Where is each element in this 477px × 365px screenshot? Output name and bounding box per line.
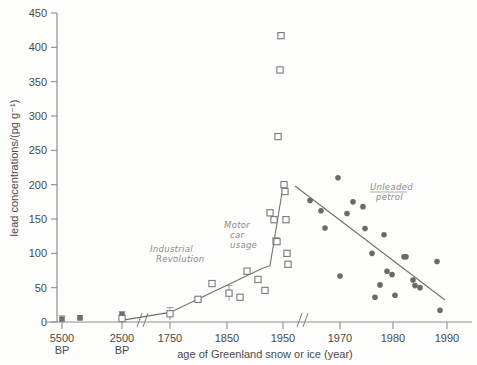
data-point-circle: [322, 225, 328, 231]
data-point-circle: [335, 175, 341, 181]
axis-break-slash: [143, 313, 148, 327]
data-point-circle: [362, 226, 368, 232]
data-point-circle: [389, 272, 395, 278]
data-point-circle: [344, 211, 350, 217]
y-tick-label: 100: [29, 247, 47, 259]
data-point-circle: [360, 204, 366, 210]
data-point-open-square: [285, 261, 291, 267]
data-point-circle: [412, 283, 418, 289]
data-point-open-square: [226, 290, 232, 296]
data-point-circle: [384, 268, 390, 274]
data-point-open-square: [195, 296, 201, 302]
y-tick-label: 200: [29, 179, 47, 191]
data-point-open-square: [284, 250, 290, 256]
x-tick-sublabel: BP: [55, 344, 70, 356]
y-tick-label: 300: [29, 110, 47, 122]
axis-break-slash: [303, 313, 308, 327]
data-point-circle: [377, 282, 383, 288]
data-point-open-square: [167, 311, 173, 317]
data-point-circle: [307, 198, 313, 204]
x-tick-sublabel: BP: [115, 344, 130, 356]
data-point-circle: [434, 259, 440, 265]
y-tick-label: 250: [29, 144, 47, 156]
x-tick-label: 1750: [158, 332, 182, 344]
data-point-circle: [381, 232, 387, 238]
y-tick-label: 350: [29, 76, 47, 88]
data-point-circle: [372, 294, 378, 300]
data-point-circle: [410, 277, 416, 283]
y-axis-ticks: 050100150200250300350400450: [29, 7, 57, 328]
data-point-circle: [403, 254, 409, 260]
x-tick-label: 1990: [435, 332, 459, 344]
unleaded-petrol-line: petrol: [375, 192, 403, 202]
data-point-circle: [350, 199, 356, 205]
x-tick-label: 2500: [110, 332, 134, 344]
x-tick-label: 1980: [381, 332, 405, 344]
data-point-circle: [337, 273, 343, 279]
data-point-open-square: [281, 182, 287, 188]
industrial-revolution-line: Industrial: [150, 244, 193, 254]
y-tick-label: 450: [29, 7, 47, 19]
data-point-open-square: [277, 67, 283, 73]
data-point-open-square: [278, 33, 284, 39]
y-tick-label: 400: [29, 41, 47, 53]
data-point-open-square: [262, 287, 268, 293]
data-point-circle: [437, 308, 443, 314]
motor-car-usage-line: Motor: [224, 220, 250, 230]
data-point-open-square: [255, 276, 261, 282]
unleaded-petrol-line: Unleaded: [370, 182, 413, 192]
x-tick-label: 1850: [215, 332, 239, 344]
data-point-circle: [417, 285, 423, 291]
axis-break-slash: [137, 313, 142, 327]
data-point-filled-square: [77, 315, 83, 321]
motor-car-usage-line: usage: [230, 240, 257, 250]
axis-break-marks: [137, 313, 308, 327]
motor-car-usage-line: car: [230, 230, 244, 240]
data-point-open-square: [267, 210, 273, 216]
data-point-circle: [369, 251, 375, 257]
chart-figure: 050100150200250300350400450 5500BP2500BP…: [0, 0, 477, 365]
x-tick-label: 1950: [271, 332, 295, 344]
x-tick-label: 1970: [328, 332, 352, 344]
data-point-open-square: [275, 134, 281, 140]
x-axis-title: age of Greenland snow or ice (year): [177, 348, 352, 360]
y-tick-label: 150: [29, 213, 47, 225]
data-point-circle: [318, 208, 324, 214]
data-point-open-square: [119, 315, 125, 321]
data-markers: [59, 33, 443, 322]
data-point-circle: [392, 292, 398, 298]
x-tick-label: 5500: [50, 332, 74, 344]
industrial-revolution-line: Revolution: [156, 254, 204, 264]
chart-canvas: 050100150200250300350400450 5500BP2500BP…: [0, 0, 477, 365]
data-point-open-square: [282, 188, 288, 194]
data-point-open-square: [274, 239, 280, 245]
data-point-filled-square: [59, 316, 65, 322]
unleaded-decline-line: [295, 186, 445, 300]
axis-break-slash: [297, 313, 302, 327]
data-point-open-square: [283, 217, 289, 223]
y-axis-title: lead concentrations/(pg g⁻¹): [8, 100, 20, 237]
y-tick-label: 50: [35, 282, 47, 294]
data-point-open-square: [244, 268, 250, 274]
data-point-open-square: [237, 294, 243, 300]
data-point-open-square: [209, 280, 215, 286]
data-point-open-square: [271, 217, 277, 223]
